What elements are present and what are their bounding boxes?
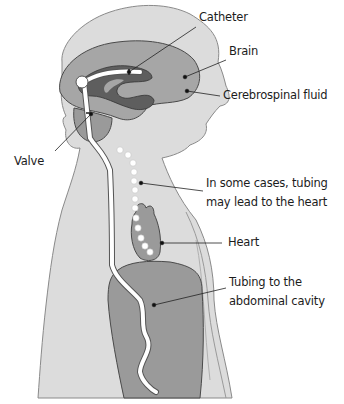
label-valve: Valve xyxy=(14,152,44,171)
label-brain: Brain xyxy=(229,42,258,61)
label-heart-tubing-line2: may lead to the heart xyxy=(206,193,327,212)
label-abdominal-line1: Tubing to the xyxy=(229,273,302,292)
valve-reservoir xyxy=(76,76,88,88)
label-heart-tubing-line1: In some cases, tubing xyxy=(206,174,328,193)
label-cerebrospinal-fluid: Cerebrospinal fluid xyxy=(223,86,327,105)
label-heart: Heart xyxy=(228,233,259,252)
label-abdominal-line2: abdominal cavity xyxy=(229,292,325,311)
label-catheter: Catheter xyxy=(199,8,248,27)
